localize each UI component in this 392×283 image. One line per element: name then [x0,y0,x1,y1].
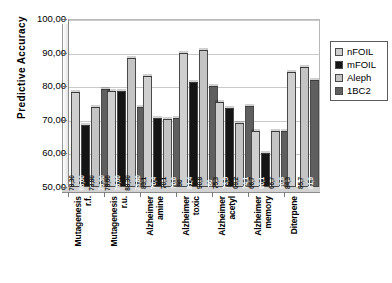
bar-value-label: 66,7 [247,177,256,189]
bar-value-label: 78,60 [103,175,112,190]
bar-slot [297,19,299,187]
bar-slot: 70,4 [153,19,162,187]
bar[interactable]: 81,4 [189,82,198,188]
bar-slot: 68,60 [81,19,90,187]
x-tick-mark [176,192,177,197]
bar-value-label: 88,30 [123,175,132,190]
bar[interactable]: 84,3 [287,72,296,187]
legend-label: 1BC2 [347,85,371,96]
bar-slot: 66,7 [251,19,260,187]
legend-item[interactable]: Aleph [335,71,384,84]
legend-item[interactable]: mFOIL [335,58,384,71]
bar-slot: 90 [179,19,188,187]
x-tick-mark [68,192,69,197]
bar-value-label: 66,7 [267,177,276,189]
bar[interactable]: 78,60 [107,91,116,187]
bar-value-label: 70,1 [159,177,168,189]
bar-value-label: 73,80 [87,175,96,190]
x-axis-labels: Mutagenesisr.f.Mutagenesisr.u.Alzheimera… [68,196,320,282]
bar-group: 78,6078,6088,3073,80 [107,19,139,187]
bar-group: 78,3068,6073,8079,30 [71,19,103,187]
bar-groups: 78,3068,6073,8079,3078,6078,6088,3073,80… [68,19,320,187]
y-tick-label: 90,00 [20,47,66,58]
legend-label: Aleph [347,72,371,83]
bar[interactable]: 78,60 [117,91,126,187]
x-axis-category-label: Diterpene [290,196,304,280]
bar[interactable]: 75,3 [215,102,224,187]
bar-value-label: 75,3 [211,177,220,189]
bar-slot: 83,1 [143,19,152,187]
bar-group: 84,385,781,9 [287,19,319,187]
x-label-line: memory [264,196,274,280]
bar-value-label: 60,1 [257,177,266,189]
legend-item[interactable]: nFOIL [335,45,384,58]
bar[interactable]: 81,9 [310,80,319,187]
x-label-line: Mutagenesis [110,196,120,280]
bar-value-label: 81,9 [306,177,315,189]
bar-group: 83,170,470,170,6 [143,19,175,187]
bar-value-label: 68,60 [77,175,86,190]
y-tick-mark [62,153,67,154]
bar-value-label: 84,3 [283,177,292,189]
bar[interactable]: 83,1 [143,76,152,187]
bar-value-label: 78,30 [67,175,76,190]
bar-slot: 75,3 [215,19,224,187]
bar-slot: 78,60 [117,19,126,187]
bar-value-label: 78,60 [113,175,122,190]
x-axis-category-label: Alzheimermemory [254,196,268,280]
bar-value-label: 73,5 [221,177,230,189]
bar-group: 9081,490,880 [179,19,211,187]
x-axis-category-label: Mutagenesisr.f. [74,196,88,280]
bar[interactable]: 90,8 [199,50,208,187]
x-tick-mark [104,192,105,197]
legend-swatch-icon [335,61,343,69]
bar-value-label: 81,4 [185,177,194,189]
x-label-line: r.u. [120,196,130,280]
bar-slot: 70,1 [163,19,172,187]
x-label-line: Mutagenesis [74,196,84,280]
bar[interactable]: 88,30 [127,58,136,187]
bar-slot: 88,30 [127,19,136,187]
bar[interactable]: 90 [179,53,188,187]
bar-slot: 84,3 [287,19,296,187]
x-label-line: toxic [192,196,202,280]
y-tick-mark [62,86,67,87]
legend-label: nFOIL [347,46,373,57]
bar-slot: 90,8 [199,19,208,187]
bar-value-label: 83,1 [139,177,148,189]
bar[interactable]: 85,7 [300,67,309,187]
x-axis-category-label: Alzheimeramine [146,196,160,280]
y-tick-mark [62,53,67,54]
x-label-line: r.f. [84,196,94,280]
bar[interactable]: 78,30 [71,92,80,187]
bar-slot: 73,80 [91,19,100,187]
bar-slot: 78,60 [107,19,116,187]
x-axis-category-label: Mutagenesisr.u. [110,196,124,280]
y-tick-label: 100,00 [20,13,66,24]
legend-label: mFOIL [347,59,376,70]
x-tick-mark [212,192,213,197]
x-tick-mark [248,192,249,197]
bar-value-label: 70,4 [149,177,158,189]
bar-group: 75,373,569,274,1 [215,19,247,187]
bar-slot: 85,7 [300,19,309,187]
y-tick-label: 50,00 [20,181,66,192]
y-tick-label: 70,00 [20,114,66,125]
legend-item[interactable]: 1BC2 [335,84,384,97]
bar-chart: Predictive Accuracy 100,0090,0080,0070,0… [0,0,392,283]
legend-swatch-icon [335,74,343,82]
y-tick-mark [62,19,67,20]
bar-slot: 60,1 [261,19,270,187]
y-tick-mark [62,120,67,121]
x-axis-category-label: Alzheimertoxic [182,196,196,280]
y-tick-label: 60,00 [20,147,66,158]
bar-slot: 66,7 [271,19,280,187]
bar[interactable]: 73,5 [225,108,234,187]
bar-value-label: 90,8 [195,177,204,189]
bar-value-label: 85,7 [296,177,305,189]
x-label-line: acetyl [228,196,238,280]
bar-group: 66,760,166,766,8 [251,19,283,187]
bar-slot: 78,30 [71,19,80,187]
bar-value-label: 69,2 [231,177,240,189]
x-tick-mark [284,192,285,197]
